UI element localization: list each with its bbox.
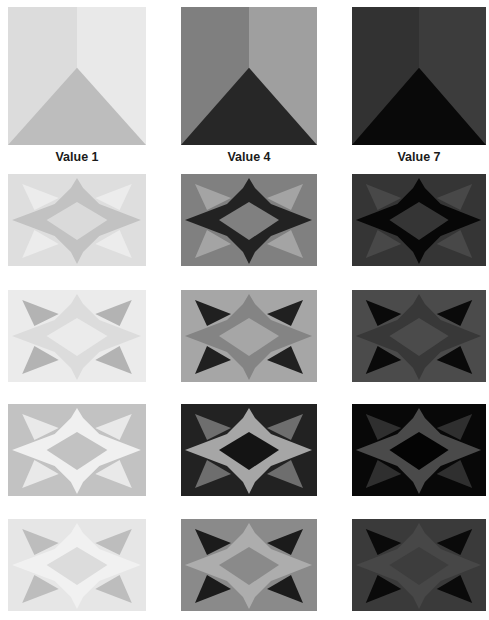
star-panel-r1-c1 [8, 174, 146, 266]
label-value-7: Value 7 [349, 150, 489, 164]
star-panel-r3-c3 [352, 404, 486, 496]
corner-panel-2 [181, 7, 317, 145]
label-value-1: Value 1 [7, 150, 147, 164]
star-panel-r2-c1 [8, 290, 146, 382]
star-panel-r4-c2 [181, 519, 317, 611]
star-panel-r1-c2 [181, 174, 317, 266]
star-panel-r3-c1 [8, 404, 146, 496]
star-panel-r1-c3 [352, 174, 486, 266]
star-panel-r4-c1 [8, 519, 146, 611]
corner-panel-1 [8, 7, 146, 145]
star-panel-r4-c3 [352, 519, 486, 611]
star-panel-r2-c3 [352, 290, 486, 382]
star-panel-r2-c2 [181, 290, 317, 382]
corner-panel-3 [352, 7, 486, 145]
label-value-4: Value 4 [179, 150, 319, 164]
star-panel-r3-c2 [181, 404, 317, 496]
